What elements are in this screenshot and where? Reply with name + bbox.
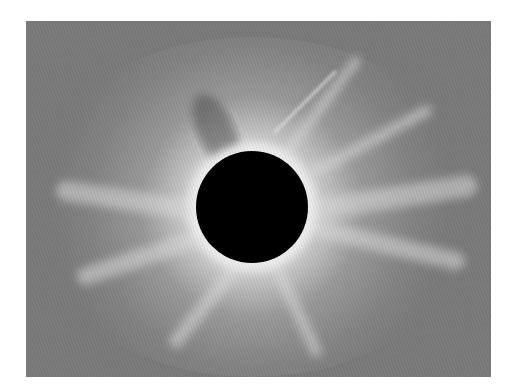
eclipse-photo (26, 21, 491, 377)
corona-graphic (26, 21, 491, 377)
